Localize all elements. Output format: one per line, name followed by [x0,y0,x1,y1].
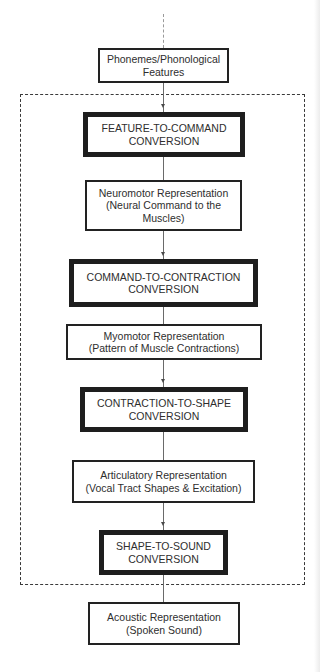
node-line: CONVERSION [129,410,200,423]
connector-command-to-myomotor [163,307,164,324]
incoming-dashed-line [163,14,164,48]
node-acoustic: Acoustic Representation (Spoken Sound) [88,602,240,645]
page-edge-shadow [314,0,320,672]
arrowhead-icon [161,522,165,526]
node-line: CONVERSION [128,553,199,566]
arrowhead-icon [161,104,165,108]
node-command-to-contraction: COMMAND-TO-CONTRACTION CONVERSION [69,259,258,307]
node-line: SHAPE-TO-SOUND [116,540,211,553]
node-line: Articulatory Representation [100,469,227,482]
node-line: (Vocal Tract Shapes & Excitation) [86,482,242,495]
node-line: FEATURE-TO-COMMAND [101,122,226,135]
arrowhead-icon [161,379,165,383]
node-phonemes: Phonemes/Phonological Features [98,48,229,83]
node-line: (Spoken Sound) [126,624,202,637]
connector-contraction-to-articulatory [163,432,164,460]
node-line: CONVERSION [129,135,200,148]
node-line: Phonemes/Phonological [107,53,220,66]
node-myomotor: Myomotor Representation (Pattern of Musc… [66,324,262,360]
node-contraction-to-shape: CONTRACTION-TO-SHAPE CONVERSION [80,387,248,432]
node-line: Neuromotor Representation [99,187,229,200]
connector-shape-to-acoustic [163,575,164,602]
node-line: Features [143,66,184,79]
node-line: CONTRACTION-TO-SHAPE [97,397,231,410]
node-line: Muscles) [142,212,184,225]
node-feature-to-command: FEATURE-TO-COMMAND CONVERSION [83,112,245,157]
node-shape-to-sound: SHAPE-TO-SOUND CONVERSION [99,530,228,575]
node-neuromotor: Neuromotor Representation (Neural Comman… [85,180,242,231]
arrowhead-icon [161,252,165,256]
node-line: Myomotor Representation [104,330,225,343]
node-line: COMMAND-TO-CONTRACTION [87,271,241,284]
connector-feature-to-neuromotor [163,157,164,180]
node-line: CONVERSION [128,283,199,296]
node-articulatory: Articulatory Representation (Vocal Tract… [72,460,255,503]
node-line: (Pattern of Muscle Contractions) [89,342,240,355]
node-line: Acoustic Representation [107,611,221,624]
node-line: (Neural Command to the [106,199,221,212]
